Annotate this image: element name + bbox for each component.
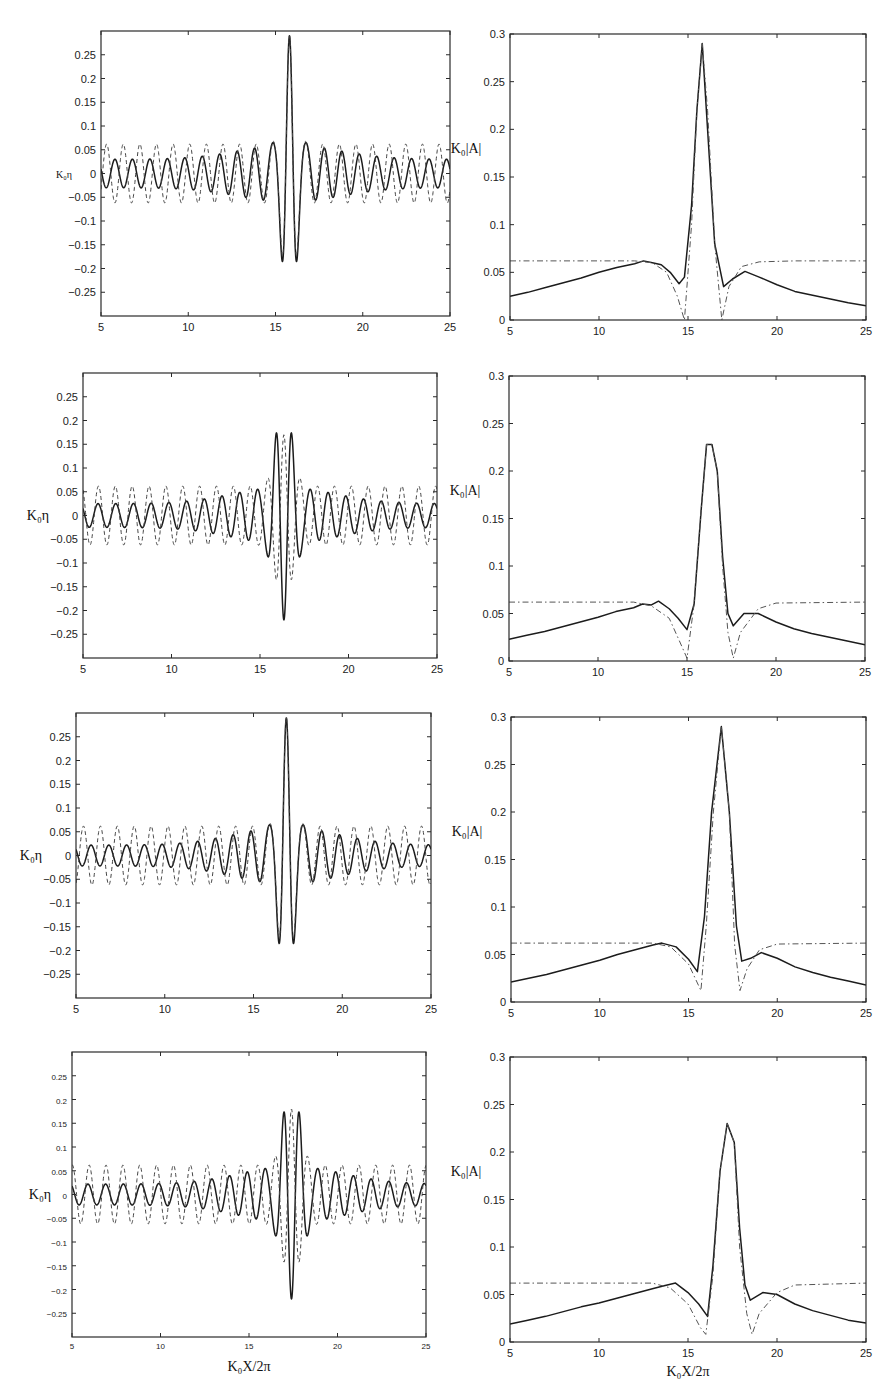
x-tick-label: 15 — [681, 666, 693, 678]
y-tick-label: 0.2 — [81, 73, 96, 85]
y-tick-label: 0.25 — [484, 1099, 505, 1111]
y-tick-label: −0.05 — [43, 873, 71, 885]
y-tick-label: −0.15 — [68, 239, 96, 251]
y-tick-label: 0.2 — [490, 123, 505, 135]
y-axis-title: K₀η — [20, 848, 42, 863]
y-tick-label: 0.15 — [484, 1194, 505, 1206]
x-tick-label: 15 — [682, 1347, 694, 1359]
y-tick-label: −0.2 — [49, 945, 71, 957]
y-tick-label: 0.25 — [50, 731, 71, 743]
y-tick-label: 0 — [72, 510, 78, 522]
y-axis-title: K₀η — [27, 508, 49, 523]
plot-canvas: 5101520250.250.20.150.10.050−0.05−0.1−0.… — [0, 0, 895, 1389]
y-tick-label: 0.1 — [489, 560, 504, 572]
y-axis-title: K₀|A| — [452, 824, 483, 839]
y-tick-label: −0.05 — [47, 1215, 68, 1224]
plot-frame — [76, 713, 431, 998]
y-tick-label: −0.1 — [56, 557, 78, 569]
series-solid-line — [72, 1112, 426, 1299]
chart-r3-right: 5101520250.30.250.20.150.10.050K₀|A| — [452, 711, 872, 1019]
x-tick-label: 5 — [98, 321, 104, 333]
y-tick-label: 0.3 — [490, 28, 505, 40]
y-tick-label: 0.25 — [75, 49, 96, 61]
y-tick-label: 0.1 — [56, 1144, 68, 1153]
x-tick-label: 5 — [508, 1007, 514, 1019]
series-dash-line — [101, 36, 450, 256]
plot-frame — [101, 31, 450, 316]
y-tick-label: 0.05 — [75, 144, 96, 156]
y-tick-label: 0.15 — [75, 96, 96, 108]
y-axis-title: K₀η — [29, 1187, 51, 1202]
y-tick-label: 0.05 — [483, 608, 504, 620]
x-tick-label: 20 — [771, 1347, 783, 1359]
x-tick-label: 25 — [444, 321, 456, 333]
y-tick-label: −0.1 — [51, 1239, 67, 1248]
series-dashdot-line — [510, 44, 866, 320]
y-tick-label: 0.1 — [63, 462, 78, 474]
y-tick-label: −0.1 — [74, 215, 96, 227]
y-tick-label: 0.25 — [484, 76, 505, 88]
chart-r2-left: 5101520250.250.20.150.10.050−0.05−0.1−0.… — [27, 373, 443, 675]
series-solid-line — [510, 1124, 866, 1324]
x-tick-label: 15 — [247, 1003, 259, 1015]
x-tick-label: 5 — [507, 325, 513, 337]
chart-r4-right: 5101520250.30.250.20.150.10.050K₀|A|K₀X/… — [451, 1051, 872, 1379]
series-solid-line — [509, 444, 865, 644]
x-axis-title: K₀X/2π — [227, 1359, 270, 1374]
x-tick-label: 25 — [860, 325, 872, 337]
y-tick-label: −0.25 — [47, 1310, 68, 1319]
y-tick-label: −0.15 — [43, 921, 71, 933]
y-tick-label: 0.15 — [483, 513, 504, 525]
x-tick-label: 5 — [507, 1347, 513, 1359]
y-tick-label: 0.25 — [483, 418, 504, 430]
chart-r4-left: 5101520250.250.20.150.10.050−0.05−0.1−0.… — [29, 1052, 431, 1374]
y-tick-label: −0.1 — [49, 897, 71, 909]
y-tick-label: −0.25 — [43, 968, 71, 980]
y-tick-label: −0.25 — [68, 286, 96, 298]
x-tick-label: 10 — [165, 663, 177, 675]
x-tick-label: 15 — [269, 321, 281, 333]
x-tick-label: 15 — [245, 1342, 254, 1351]
y-tick-label: 0 — [500, 996, 506, 1008]
x-tick-label: 10 — [594, 1007, 606, 1019]
y-tick-label: 0.25 — [57, 391, 78, 403]
y-tick-label: 0 — [499, 1336, 505, 1348]
x-tick-label: 10 — [593, 1347, 605, 1359]
x-tick-label: 5 — [506, 666, 512, 678]
x-tick-label: 10 — [182, 321, 194, 333]
y-tick-label: 0.05 — [57, 486, 78, 498]
y-axis-title: K₀η — [56, 169, 72, 180]
y-tick-label: 0.2 — [63, 415, 78, 427]
y-tick-label: −0.2 — [51, 1287, 67, 1296]
y-tick-label: −0.2 — [56, 605, 78, 617]
plot-frame — [509, 376, 865, 661]
y-tick-label: −0.25 — [50, 628, 78, 640]
y-tick-label: 0.25 — [485, 759, 506, 771]
series-dashdot-line — [510, 1124, 866, 1335]
x-tick-label: 25 — [859, 666, 871, 678]
y-tick-label: 0.15 — [484, 171, 505, 183]
y-tick-label: 0.05 — [484, 1289, 505, 1301]
x-tick-label: 10 — [156, 1342, 165, 1351]
series-solid-line — [510, 44, 866, 306]
y-tick-label: 0.1 — [56, 802, 71, 814]
x-tick-label: 20 — [357, 321, 369, 333]
y-tick-label: 0.15 — [51, 1120, 67, 1129]
x-tick-label: 10 — [592, 666, 604, 678]
figure-grid: 5101520250.250.20.150.10.050−0.05−0.1−0.… — [0, 0, 895, 1389]
series-solid-line — [83, 433, 437, 620]
series-solid-line — [76, 718, 431, 944]
x-tick-label: 15 — [254, 663, 266, 675]
x-tick-label: 10 — [159, 1003, 171, 1015]
series-dashdot-line — [511, 727, 866, 991]
y-tick-label: −0.05 — [50, 533, 78, 545]
y-tick-label: 0.15 — [485, 854, 506, 866]
x-tick-label: 25 — [860, 1347, 872, 1359]
x-tick-label: 25 — [431, 663, 443, 675]
x-tick-label: 5 — [80, 663, 86, 675]
y-tick-label: 0.15 — [57, 438, 78, 450]
y-tick-label: 0.2 — [491, 806, 506, 818]
y-tick-label: 0.05 — [51, 1168, 67, 1177]
series-solid-line — [511, 727, 866, 985]
plot-frame — [510, 34, 866, 320]
